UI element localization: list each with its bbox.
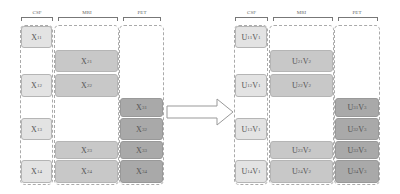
pet-cell: U34V3: [335, 160, 379, 183]
brace-pet: [338, 17, 378, 21]
mri-cell: X23: [55, 141, 118, 159]
mri-cell: U21V2: [270, 50, 333, 72]
pet-cell: U33V3: [335, 141, 379, 159]
right-panel-factorized-matrix: CSF MRI PET U11V1U12V1U13V1U14V1U21V2U22…: [200, 0, 400, 194]
brace-mri: [273, 17, 333, 21]
csf-cell: X11: [21, 26, 52, 48]
csf-cell: U12V1: [235, 74, 267, 97]
pet-cell: X33: [120, 141, 163, 159]
brace-csf: [21, 17, 53, 21]
header-mri: MRI: [269, 10, 334, 15]
pet-cell: X32: [120, 118, 163, 140]
mri-cell: U22V2: [270, 74, 333, 97]
mri-cell: X24: [55, 160, 118, 183]
csf-cell: U11V1: [235, 26, 267, 48]
header-mri: MRI: [55, 10, 119, 15]
brace-csf: [235, 17, 268, 21]
mri-cell: U23V2: [270, 141, 333, 159]
mri-cell: U24V2: [270, 160, 333, 183]
csf-cell: X13: [21, 118, 52, 140]
pet-cell: U32V3: [335, 118, 379, 140]
csf-cell: U13V1: [235, 118, 267, 140]
header-csf: CSF: [235, 10, 268, 15]
mri-cell: X21: [55, 50, 118, 72]
csf-cell: X14: [21, 160, 52, 183]
pet-cell: X34: [120, 160, 163, 183]
pet-cell: U31V3: [335, 98, 379, 117]
csf-cell: X12: [21, 74, 52, 97]
pet-cell: X31: [120, 98, 163, 117]
mri-cell: X22: [55, 74, 118, 97]
header-csf: CSF: [21, 10, 53, 15]
header-pet: PET: [334, 10, 380, 15]
header-pet: PET: [120, 10, 164, 15]
brace-pet: [123, 17, 161, 21]
csf-cell: U14V1: [235, 160, 267, 183]
brace-mri: [58, 17, 118, 21]
